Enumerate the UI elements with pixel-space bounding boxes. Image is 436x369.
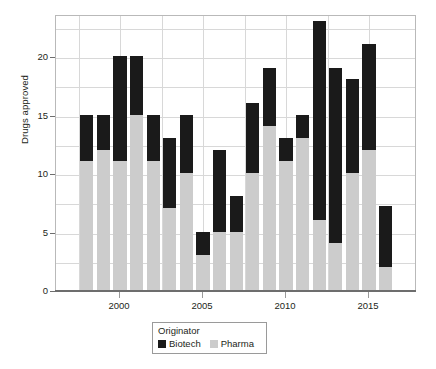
x-tick-mark xyxy=(119,292,120,298)
bar-segment-biotech xyxy=(196,232,209,255)
bar-segment-pharma xyxy=(329,243,342,290)
bar-2013 xyxy=(329,15,342,290)
bar-segment-biotech xyxy=(163,138,176,208)
bar-segment-pharma xyxy=(80,161,93,290)
y-tick-label: 20 xyxy=(0,51,48,62)
bar-segment-pharma xyxy=(246,173,259,290)
y-tick-label: 15 xyxy=(0,110,48,121)
bar-segment-biotech xyxy=(246,103,259,173)
bar-segment-biotech xyxy=(213,150,226,232)
bar-2002 xyxy=(147,15,160,290)
bar-2001 xyxy=(130,15,143,290)
bar-segment-pharma xyxy=(313,220,326,290)
chart-root: Drugs approved 05101520 2000200520102015… xyxy=(0,0,436,369)
bar-segment-pharma xyxy=(279,161,292,290)
legend-label-biotech: Biotech xyxy=(169,338,201,350)
bar-segment-pharma xyxy=(113,161,126,290)
bar-segment-pharma xyxy=(130,115,143,291)
bar-1998 xyxy=(80,15,93,290)
y-tick-label: 10 xyxy=(0,168,48,179)
bar-segment-pharma xyxy=(296,138,309,290)
bar-segment-pharma xyxy=(147,161,160,290)
bar-segment-biotech xyxy=(346,79,359,173)
bar-2015 xyxy=(362,15,375,290)
bar-segment-pharma xyxy=(362,150,375,290)
bar-segment-pharma xyxy=(263,126,276,290)
bar-segment-biotech xyxy=(97,115,110,150)
bar-2016 xyxy=(379,15,392,290)
legend-label-pharma: Pharma xyxy=(221,338,254,350)
bar-segment-biotech xyxy=(147,115,160,162)
y-tick-mark xyxy=(50,174,55,175)
bar-segment-biotech xyxy=(230,196,243,231)
legend: Originator BiotechPharma xyxy=(152,322,267,354)
y-tick-mark xyxy=(50,57,55,58)
bar-2003 xyxy=(163,15,176,290)
bar-2008 xyxy=(246,15,259,290)
x-tick-label: 2000 xyxy=(95,300,143,311)
bar-2007 xyxy=(230,15,243,290)
legend-title: Originator xyxy=(158,325,260,337)
bar-segment-pharma xyxy=(163,208,176,290)
x-tick-label: 2010 xyxy=(261,300,309,311)
bar-segment-biotech xyxy=(113,56,126,161)
legend-swatch-biotech xyxy=(158,340,166,348)
bar-2009 xyxy=(263,15,276,290)
bar-2014 xyxy=(346,15,359,290)
x-tick-label: 2005 xyxy=(178,300,226,311)
bar-segment-pharma xyxy=(97,150,110,290)
x-tick-mark xyxy=(285,292,286,298)
plot-area xyxy=(55,15,416,291)
bar-2011 xyxy=(296,15,309,290)
bar-segment-pharma xyxy=(196,255,209,290)
bar-2004 xyxy=(180,15,193,290)
bar-segment-biotech xyxy=(329,68,342,244)
bar-2000 xyxy=(113,15,126,290)
bar-segment-pharma xyxy=(346,173,359,290)
y-tick-mark xyxy=(50,291,55,292)
bar-segment-biotech xyxy=(379,206,392,267)
bar-2006 xyxy=(213,15,226,290)
bar-1999 xyxy=(97,15,110,290)
bar-segment-biotech xyxy=(263,68,276,127)
bar-2005 xyxy=(196,15,209,290)
bar-segment-biotech xyxy=(362,44,375,149)
bar-segment-pharma xyxy=(379,267,392,290)
bar-segment-biotech xyxy=(180,115,193,174)
x-axis-baseline xyxy=(55,290,416,292)
bar-segment-biotech xyxy=(130,56,143,115)
x-tick-label: 2015 xyxy=(344,300,392,311)
bar-segment-pharma xyxy=(213,232,226,291)
bar-segment-biotech xyxy=(313,21,326,220)
bar-2010 xyxy=(279,15,292,290)
bar-segment-biotech xyxy=(80,115,93,162)
legend-swatch-pharma xyxy=(210,340,218,348)
y-tick-mark xyxy=(50,233,55,234)
x-tick-mark xyxy=(368,292,369,298)
bar-segment-biotech xyxy=(279,138,292,161)
bar-segment-biotech xyxy=(296,115,309,138)
bar-2012 xyxy=(313,15,326,290)
y-tick-label: 0 xyxy=(0,285,48,296)
bar-segment-pharma xyxy=(230,232,243,291)
legend-entries: BiotechPharma xyxy=(158,338,260,350)
x-tick-mark xyxy=(202,292,203,298)
y-tick-label: 5 xyxy=(0,227,48,238)
bar-segment-pharma xyxy=(180,173,193,290)
y-tick-mark xyxy=(50,116,55,117)
